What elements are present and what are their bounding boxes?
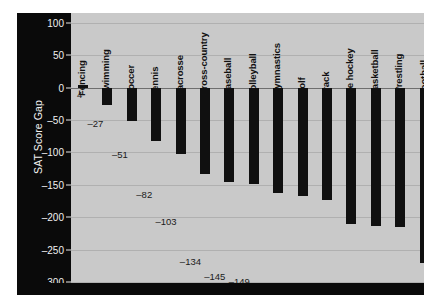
category-label: Cross-country [198,32,209,96]
bar [273,88,283,194]
bar [200,88,210,175]
value-label: –51 [94,149,128,160]
value-label: –27 [71,118,103,129]
bar [249,88,259,185]
category-label: Volleyball [247,53,258,96]
gridline [71,250,424,251]
category-label: Swimming [100,49,111,96]
chart-frame: SAT Score Gap 100500–50–100–150–200–250–… [17,13,424,295]
category-label: Track [320,71,331,95]
y-axis-tick-label: 50 [53,50,64,61]
category-label: Baseball [222,57,233,95]
y-axis-panel: SAT Score Gap 100500–50–100–150–200–250–… [17,13,71,295]
category-label: Lacrosse [174,55,185,96]
bar [176,88,186,155]
bar [298,88,308,197]
x-axis-strip [17,283,424,295]
category-label: Basketball [369,49,380,96]
bar [371,88,381,226]
category-label: Gymnastics [271,43,282,96]
bar [322,88,332,200]
plot-area: Fencing4Swimming–27Soccer–51Tennis–82Lac… [71,13,424,295]
value-label: –103 [143,216,177,227]
category-label: Ice hockey [344,48,355,96]
y-axis-tick-label: 0 [58,82,64,93]
bar [346,88,356,224]
bar [395,88,405,227]
y-axis-tick-label: –250 [42,244,64,255]
bar [420,88,424,264]
category-label: Football [418,59,424,95]
value-label: –134 [167,256,201,267]
y-axis-tick-label: –100 [42,147,64,158]
category-label: Wrestling [393,53,404,95]
bar [224,88,234,182]
value-label: –82 [118,189,152,200]
chart-figure: SAT Score Gap 100500–50–100–150–200–250–… [0,0,440,306]
y-axis-title: SAT Score Gap [32,57,44,217]
y-axis-tick-label: –200 [42,212,64,223]
category-label: Tennis [149,66,160,95]
category-label: Soccer [125,64,136,95]
category-label: Golf [296,77,307,96]
gridline [71,23,424,24]
y-axis-tick-label: 100 [47,17,64,28]
y-axis-tick-label: –150 [42,179,64,190]
y-axis-tick-label: –50 [47,114,64,125]
